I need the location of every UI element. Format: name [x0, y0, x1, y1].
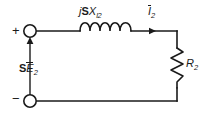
source-slip-factor: S [19, 62, 26, 74]
inductor-symbol [80, 23, 131, 31]
source-emf-symbol: E [26, 62, 33, 74]
negative-terminal-node [24, 95, 36, 107]
reactance-subscript: l2 [96, 11, 101, 20]
resistor-label: R2 [186, 58, 198, 71]
positive-terminal-sign: + [12, 24, 20, 37]
reactance-slip-factor: S [81, 5, 88, 17]
source-subscript: 2 [34, 68, 38, 77]
positive-terminal-node [24, 25, 36, 37]
reactance-label: jSXl2 [79, 6, 102, 19]
current-subscript: 2 [151, 11, 155, 20]
source-arrow-head [27, 37, 34, 44]
negative-terminal-sign: − [12, 92, 20, 105]
resistor-symbol [171, 48, 183, 88]
resistor-zigzag [171, 48, 183, 88]
source-label: SE2 [19, 62, 38, 76]
circuit-schematic-svg [0, 0, 208, 119]
resistor-subscript: 2 [194, 63, 198, 72]
circuit-diagram: + − jSXl2 I2 SE2 R2 [0, 0, 208, 119]
current-label: I2 [148, 5, 155, 19]
resistor-symbol-text: R [186, 57, 194, 69]
current-symbol: I [148, 5, 151, 17]
circuit-wires [37, 31, 177, 101]
inductor-coils [80, 23, 131, 31]
current-arrow-head [149, 28, 156, 34]
